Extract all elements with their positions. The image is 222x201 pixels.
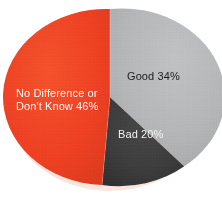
pie-chart: Good 34% Bad 20% No Difference or Don't … (0, 0, 222, 201)
pie-slice-no-difference (3, 9, 110, 185)
pie-chart-canvas (0, 0, 222, 201)
pie-slices-group (3, 8, 222, 186)
